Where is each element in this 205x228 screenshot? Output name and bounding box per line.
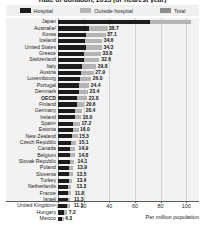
bar-segment-hospital bbox=[58, 191, 68, 195]
bar-segment-hospital bbox=[58, 102, 77, 106]
bar-stack[interactable] bbox=[58, 166, 73, 170]
legend-label-hospital: Hospital bbox=[34, 8, 53, 14]
category-label: Austria bbox=[6, 70, 58, 76]
legend-item-total: Total bbox=[160, 8, 185, 14]
bar-segment-hospital bbox=[58, 153, 70, 157]
bar-segment-hospital bbox=[58, 134, 72, 138]
bar-stack[interactable] bbox=[58, 128, 79, 132]
bar-segment-hospital bbox=[58, 166, 69, 170]
category-label: Estonia bbox=[6, 127, 58, 133]
category-label: Belgium bbox=[6, 153, 58, 159]
bar-segment-outside-hospital bbox=[75, 115, 81, 119]
category-label: Iceland bbox=[6, 38, 58, 44]
x-tick-label: 40 bbox=[106, 203, 112, 209]
category-label: Turkey bbox=[6, 178, 58, 184]
bar-stack[interactable] bbox=[58, 147, 75, 151]
bar-stack[interactable] bbox=[58, 191, 71, 195]
bar-segment-outside-hospital bbox=[150, 20, 191, 24]
bar-segment-hospital bbox=[58, 20, 150, 24]
bar-segment-hospital bbox=[58, 172, 69, 176]
bar-segment-outside-hospital bbox=[79, 90, 88, 94]
bar-segment-outside-hospital bbox=[75, 109, 82, 113]
bar-stack[interactable] bbox=[58, 58, 99, 62]
bar-segment-hospital bbox=[58, 90, 79, 94]
bar-segment-outside-hospital bbox=[86, 33, 105, 37]
bar-stack[interactable] bbox=[58, 160, 74, 164]
legend-label-outside-hospital: Outside hospital bbox=[94, 8, 133, 14]
category-label: Finland bbox=[6, 102, 58, 108]
bar-value-label: 4.3 bbox=[65, 216, 72, 222]
bar-segment-hospital bbox=[58, 77, 80, 81]
bar-stack[interactable] bbox=[58, 122, 80, 126]
bar-segment-hospital bbox=[58, 128, 73, 132]
category-label: Canada bbox=[6, 146, 58, 152]
bar-stack[interactable] bbox=[58, 64, 96, 68]
legend-swatch-hospital bbox=[20, 8, 31, 13]
bar-segment-outside-hospital bbox=[84, 58, 99, 62]
bar-stack[interactable] bbox=[58, 141, 76, 145]
bar-segment-hospital bbox=[58, 52, 84, 56]
category-label: Denmark bbox=[6, 89, 58, 95]
bar-segment-outside-hospital bbox=[82, 64, 96, 68]
chart-title: Rate of donation, 2015 (or nearest year) bbox=[0, 0, 205, 3]
legend-item-hospital: Hospital bbox=[20, 8, 53, 14]
bar-segment-hospital bbox=[58, 39, 85, 43]
bar-segment-hospital bbox=[58, 160, 70, 164]
bar-stack[interactable] bbox=[58, 217, 64, 221]
category-label: OECD bbox=[6, 96, 58, 102]
bar-stack[interactable] bbox=[58, 102, 84, 106]
bar-segment-hospital bbox=[58, 26, 89, 30]
bar-stack[interactable] bbox=[58, 77, 91, 81]
bar-stack[interactable] bbox=[58, 115, 81, 119]
bar-stack[interactable] bbox=[58, 45, 102, 49]
bar-stack[interactable] bbox=[58, 153, 75, 157]
chart-root: Rate of donation, 2015 (or nearest year)… bbox=[0, 0, 205, 228]
bar-stack[interactable] bbox=[58, 71, 94, 75]
bar-stack[interactable] bbox=[58, 39, 102, 43]
bar-stack[interactable] bbox=[58, 90, 88, 94]
bar-segment-hospital bbox=[58, 33, 86, 37]
bar-value-label: 23.4 bbox=[89, 89, 99, 95]
bar-stack[interactable] bbox=[58, 33, 106, 37]
bar-segment-hospital bbox=[58, 147, 70, 151]
plot-area: JapanAustralia²38.7Korea37.1Iceland34.6U… bbox=[6, 18, 199, 201]
bar-stack[interactable] bbox=[58, 185, 71, 189]
bar-stack[interactable] bbox=[58, 52, 101, 56]
bar-stack[interactable] bbox=[58, 96, 87, 100]
category-label: France bbox=[6, 191, 58, 197]
bar-segment-outside-hospital bbox=[77, 102, 85, 106]
category-label: Slovak Republic bbox=[6, 159, 58, 165]
bar-segment-outside-hospital bbox=[85, 39, 102, 43]
bar-segment-hospital bbox=[58, 96, 77, 100]
category-label: Switzerland bbox=[6, 57, 58, 63]
x-tick-label: 0 bbox=[57, 203, 60, 209]
bar-stack[interactable] bbox=[58, 109, 82, 113]
legend-label-total: Total bbox=[174, 8, 185, 14]
bar-stack[interactable] bbox=[58, 179, 72, 183]
bar-segment-hospital bbox=[58, 115, 75, 119]
category-label: Greece bbox=[6, 51, 58, 57]
bar-segment-outside-hospital bbox=[77, 96, 87, 100]
x-tick-label: 20 bbox=[81, 203, 87, 209]
bar-stack[interactable] bbox=[58, 26, 108, 30]
bar-stack[interactable] bbox=[58, 172, 73, 176]
category-label: New Zealand bbox=[6, 134, 58, 140]
x-axis-title: Per million population bbox=[146, 214, 199, 220]
category-label: Mexico bbox=[6, 216, 58, 222]
category-label: Spain¹ bbox=[6, 121, 58, 127]
bar-segment-outside-hospital bbox=[68, 191, 71, 195]
bar-segment-outside-hospital bbox=[89, 26, 108, 30]
chart-legend: Hospital Outside hospital Total bbox=[6, 5, 199, 16]
bar-segment-outside-hospital bbox=[86, 45, 102, 49]
bar-value-label: 16.0 bbox=[80, 127, 90, 133]
bar-stack[interactable] bbox=[58, 83, 89, 87]
bar-stack[interactable] bbox=[58, 134, 78, 138]
bar-segment-outside-hospital bbox=[84, 52, 101, 56]
legend-swatch-outside-hospital bbox=[80, 8, 91, 13]
bar-segment-outside-hospital bbox=[62, 217, 64, 221]
bar-segment-outside-hospital bbox=[69, 166, 73, 170]
bar-segment-hospital bbox=[58, 185, 68, 189]
bar-stack[interactable] bbox=[58, 20, 191, 24]
category-label: Slovenia bbox=[6, 172, 58, 178]
category-label: Australia² bbox=[6, 26, 58, 32]
